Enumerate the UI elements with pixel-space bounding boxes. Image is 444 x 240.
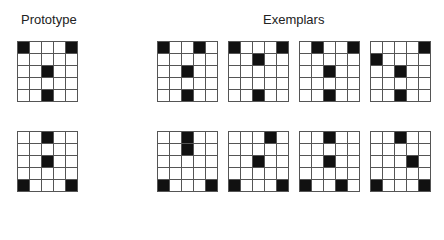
empty-cell bbox=[407, 144, 419, 156]
empty-cell bbox=[206, 132, 218, 144]
empty-cell bbox=[407, 132, 419, 144]
empty-cell bbox=[419, 78, 431, 90]
empty-cell bbox=[312, 156, 324, 168]
empty-cell bbox=[395, 42, 407, 54]
empty-cell bbox=[182, 54, 194, 66]
empty-cell bbox=[383, 90, 395, 102]
filled-cell bbox=[253, 156, 265, 168]
empty-cell bbox=[383, 78, 395, 90]
empty-cell bbox=[253, 132, 265, 144]
empty-cell bbox=[300, 78, 312, 90]
empty-cell bbox=[194, 54, 206, 66]
empty-cell bbox=[42, 180, 54, 192]
empty-cell bbox=[336, 168, 348, 180]
empty-cell bbox=[324, 180, 336, 192]
prototype-grid-1 bbox=[17, 41, 78, 102]
exemplar-grid-2-3 bbox=[299, 131, 360, 192]
empty-cell bbox=[324, 78, 336, 90]
empty-cell bbox=[253, 42, 265, 54]
empty-cell bbox=[336, 42, 348, 54]
exemplar-grid-1-1 bbox=[157, 41, 218, 102]
empty-cell bbox=[277, 54, 289, 66]
empty-cell bbox=[182, 168, 194, 180]
empty-cell bbox=[182, 156, 194, 168]
empty-cell bbox=[229, 132, 241, 144]
empty-cell bbox=[18, 66, 30, 78]
empty-cell bbox=[66, 54, 78, 66]
filled-cell bbox=[42, 156, 54, 168]
filled-cell bbox=[395, 132, 407, 144]
empty-cell bbox=[265, 156, 277, 168]
empty-cell bbox=[312, 66, 324, 78]
empty-cell bbox=[336, 78, 348, 90]
empty-cell bbox=[336, 144, 348, 156]
filled-cell bbox=[395, 90, 407, 102]
empty-cell bbox=[395, 168, 407, 180]
empty-cell bbox=[54, 168, 66, 180]
empty-cell bbox=[383, 66, 395, 78]
empty-cell bbox=[241, 132, 253, 144]
empty-cell bbox=[277, 156, 289, 168]
empty-cell bbox=[265, 180, 277, 192]
filled-cell bbox=[336, 180, 348, 192]
filled-cell bbox=[371, 54, 383, 66]
empty-cell bbox=[206, 156, 218, 168]
empty-cell bbox=[300, 54, 312, 66]
empty-cell bbox=[194, 66, 206, 78]
empty-cell bbox=[30, 42, 42, 54]
empty-cell bbox=[312, 54, 324, 66]
empty-cell bbox=[277, 78, 289, 90]
empty-cell bbox=[170, 66, 182, 78]
filled-cell bbox=[158, 42, 170, 54]
exemplar-grid-2-2 bbox=[228, 131, 289, 192]
empty-cell bbox=[383, 132, 395, 144]
prototype-grid-2 bbox=[17, 131, 78, 192]
filled-cell bbox=[348, 42, 360, 54]
filled-cell bbox=[182, 144, 194, 156]
empty-cell bbox=[383, 168, 395, 180]
empty-cell bbox=[30, 168, 42, 180]
empty-cell bbox=[419, 90, 431, 102]
empty-cell bbox=[66, 90, 78, 102]
empty-cell bbox=[395, 54, 407, 66]
empty-cell bbox=[18, 168, 30, 180]
empty-cell bbox=[395, 156, 407, 168]
empty-cell bbox=[277, 168, 289, 180]
empty-cell bbox=[300, 90, 312, 102]
empty-cell bbox=[265, 78, 277, 90]
empty-cell bbox=[348, 168, 360, 180]
empty-cell bbox=[194, 180, 206, 192]
empty-cell bbox=[348, 90, 360, 102]
empty-cell bbox=[277, 144, 289, 156]
filled-cell bbox=[182, 132, 194, 144]
filled-cell bbox=[419, 180, 431, 192]
empty-cell bbox=[241, 54, 253, 66]
empty-cell bbox=[371, 90, 383, 102]
empty-cell bbox=[54, 42, 66, 54]
empty-cell bbox=[419, 132, 431, 144]
empty-cell bbox=[383, 144, 395, 156]
empty-cell bbox=[54, 66, 66, 78]
empty-cell bbox=[348, 180, 360, 192]
empty-cell bbox=[170, 54, 182, 66]
empty-cell bbox=[312, 78, 324, 90]
filled-cell bbox=[182, 66, 194, 78]
empty-cell bbox=[182, 78, 194, 90]
empty-cell bbox=[407, 90, 419, 102]
empty-cell bbox=[241, 180, 253, 192]
empty-cell bbox=[206, 66, 218, 78]
filled-cell bbox=[312, 42, 324, 54]
empty-cell bbox=[407, 66, 419, 78]
empty-cell bbox=[348, 54, 360, 66]
filled-cell bbox=[265, 132, 277, 144]
empty-cell bbox=[30, 180, 42, 192]
empty-cell bbox=[241, 90, 253, 102]
filled-cell bbox=[42, 66, 54, 78]
empty-cell bbox=[371, 168, 383, 180]
empty-cell bbox=[336, 54, 348, 66]
empty-cell bbox=[18, 54, 30, 66]
empty-cell bbox=[54, 180, 66, 192]
empty-cell bbox=[407, 54, 419, 66]
empty-cell bbox=[66, 168, 78, 180]
empty-cell bbox=[206, 78, 218, 90]
